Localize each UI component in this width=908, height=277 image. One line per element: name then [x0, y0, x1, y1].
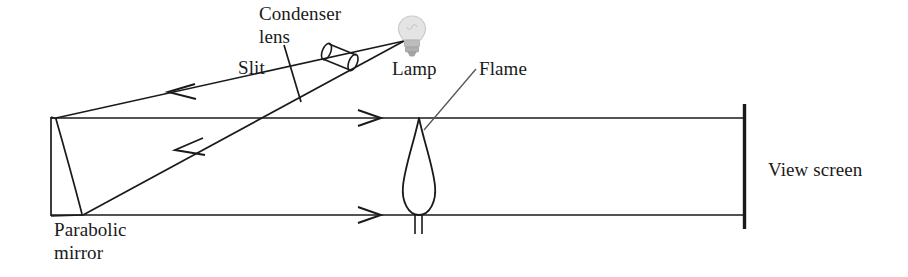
mirror-bottom-lip [51, 215, 83, 216]
diagram-canvas [0, 0, 908, 277]
slit-line [284, 45, 301, 102]
label-parabolic-mirror: Parabolicmirror [54, 218, 127, 264]
flame-outline-icon [403, 118, 435, 215]
label-view-screen: View screen [768, 158, 862, 181]
light-rays [56, 41, 404, 223]
label-slit: Slit [238, 56, 265, 79]
lamp-bulb [399, 16, 426, 56]
parabolic-mirror [51, 117, 83, 216]
condenser-lens-bottom-edge [323, 59, 350, 70]
condenser-lens-far-face [346, 53, 360, 72]
mirror-parabolic-surface [56, 119, 82, 214]
upper-ray-arrowhead-icon [168, 84, 196, 99]
label-parabolic-mirror-line1: Parabolic [54, 219, 127, 240]
label-lamp: Lamp [392, 57, 437, 80]
slit [284, 45, 301, 102]
beam-enclosure [51, 118, 746, 215]
flame [403, 118, 435, 234]
label-condenser-lens-line1: Condenser [259, 3, 341, 24]
label-parabolic-mirror-line2: mirror [54, 242, 103, 263]
optics-diagram-figure: Condenserlens Slit Lamp Flame View scree… [0, 0, 908, 277]
label-condenser-lens-line2: lens [259, 26, 290, 47]
lamp-base-icon [405, 40, 420, 47]
label-condenser-lens: Condenserlens [259, 2, 341, 48]
label-flame: Flame [479, 57, 527, 80]
lower-ray-arrowhead-icon [175, 138, 205, 155]
lamp-base-tip-icon [408, 52, 416, 56]
lamp-base-band-icon [406, 47, 419, 52]
